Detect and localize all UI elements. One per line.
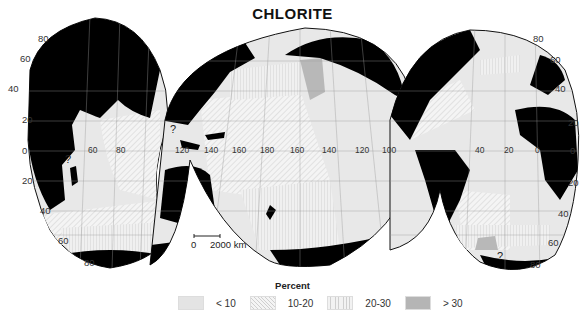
legend-item-gt30: > 30 bbox=[405, 296, 463, 310]
swatch-vertical-lines bbox=[327, 296, 353, 310]
svg-text:20: 20 bbox=[568, 177, 579, 188]
svg-text:100: 100 bbox=[382, 145, 396, 155]
svg-text:40: 40 bbox=[8, 83, 19, 94]
swatch-dark-gray bbox=[405, 296, 431, 310]
svg-text:120: 120 bbox=[175, 145, 189, 155]
svg-text:60: 60 bbox=[20, 53, 31, 64]
svg-text:20: 20 bbox=[504, 145, 514, 155]
scale-bar bbox=[194, 234, 220, 238]
uncertain-marker-indian: ? bbox=[65, 153, 71, 165]
svg-text:180: 180 bbox=[260, 145, 274, 155]
svg-text:60: 60 bbox=[548, 237, 559, 248]
svg-text:0: 0 bbox=[535, 145, 540, 155]
svg-text:40: 40 bbox=[555, 83, 566, 94]
legend-item-lt10: < 10 bbox=[178, 296, 236, 310]
swatch-diagonal-hatch bbox=[250, 296, 276, 310]
svg-text:160: 160 bbox=[290, 145, 304, 155]
scale-bar-start-label: 0 bbox=[191, 239, 196, 250]
svg-text:80: 80 bbox=[116, 145, 126, 155]
svg-text:20: 20 bbox=[568, 117, 579, 128]
svg-text:140: 140 bbox=[204, 145, 218, 155]
svg-text:40: 40 bbox=[40, 205, 51, 216]
svg-text:160: 160 bbox=[232, 145, 246, 155]
pacific-ocean-lobe bbox=[150, 25, 420, 270]
svg-text:120: 120 bbox=[355, 145, 369, 155]
svg-text:60: 60 bbox=[88, 145, 98, 155]
svg-text:20: 20 bbox=[22, 175, 33, 186]
svg-text:0: 0 bbox=[22, 145, 27, 156]
scale-bar-end-label: 2000 km bbox=[210, 239, 246, 250]
legend-title: Percent bbox=[0, 280, 585, 291]
legend-item-20-30: 20-30 bbox=[327, 296, 391, 310]
uncertain-marker-pacific: ? bbox=[170, 123, 176, 135]
svg-text:40: 40 bbox=[558, 208, 569, 219]
svg-text:20: 20 bbox=[22, 114, 33, 125]
svg-text:80: 80 bbox=[533, 33, 544, 44]
legend: < 10 10-20 20-30 > 30 bbox=[178, 296, 477, 310]
svg-text:40: 40 bbox=[475, 145, 485, 155]
svg-text:140: 140 bbox=[322, 145, 336, 155]
uncertain-marker-atlantic: ? bbox=[497, 250, 503, 262]
indian-ocean-lobe bbox=[20, 15, 170, 270]
svg-text:0: 0 bbox=[570, 145, 575, 156]
svg-text:80: 80 bbox=[530, 259, 541, 270]
chlorite-distribution-map: 60 80 120 140 160 180 160 140 120 100 40… bbox=[0, 0, 585, 326]
svg-text:80: 80 bbox=[38, 33, 49, 44]
svg-text:80: 80 bbox=[84, 257, 95, 268]
svg-text:60: 60 bbox=[58, 235, 69, 246]
swatch-light-gray bbox=[178, 296, 204, 310]
legend-item-10-20: 10-20 bbox=[250, 296, 314, 310]
svg-text:60: 60 bbox=[550, 54, 561, 65]
